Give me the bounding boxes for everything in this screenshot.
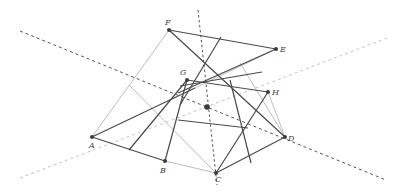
label-D: D xyxy=(287,134,295,143)
point-D xyxy=(283,135,287,139)
dotted-line-light xyxy=(20,38,387,178)
point-E xyxy=(274,47,278,51)
label-F: F xyxy=(164,18,171,27)
points xyxy=(90,28,287,175)
point-H xyxy=(266,90,270,94)
label-A: A xyxy=(88,141,95,150)
dashed-line-main xyxy=(20,31,386,180)
dark-structure-lines xyxy=(92,30,285,173)
label-G: G xyxy=(180,68,187,77)
point-F xyxy=(167,28,171,32)
center-point xyxy=(204,104,210,110)
geometry-diagram: A B C D E F G H xyxy=(0,0,400,195)
label-B: B xyxy=(159,166,166,175)
point-G xyxy=(185,78,189,82)
point-A xyxy=(90,135,94,139)
point-B xyxy=(163,159,167,163)
label-H: H xyxy=(271,88,280,97)
label-E: E xyxy=(279,45,286,54)
label-C: C xyxy=(215,175,221,184)
